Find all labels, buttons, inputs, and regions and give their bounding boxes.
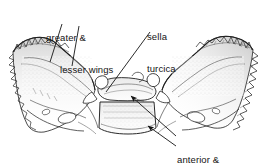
label-wings-line1: greater &	[46, 33, 113, 44]
sphenoid-bone-figure: greater & lesser wings sella turcica ant…	[0, 0, 266, 163]
label-clinoid-line1: anterior &	[177, 155, 245, 163]
label-greater-and-lesser-wings: greater & lesser wings	[46, 12, 113, 96]
leader-posterior-clinoid	[148, 126, 176, 146]
label-sella-turcica: sella turcica	[147, 11, 176, 95]
label-clinoid-processes: anterior & posterior clinoid	[177, 134, 245, 163]
label-sella-line2: turcica	[147, 64, 176, 75]
label-sella-line1: sella	[147, 32, 176, 43]
label-wings-line2: lesser wings	[46, 65, 113, 76]
